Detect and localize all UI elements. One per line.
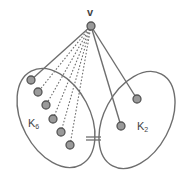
diagram-svg: v K6 K2 bbox=[0, 0, 179, 173]
nodes bbox=[27, 22, 141, 149]
k2-label: K2 bbox=[137, 120, 148, 133]
graph-diagram: v K6 K2 bbox=[0, 0, 179, 173]
k2-node-1 bbox=[117, 122, 125, 130]
k2-label-sub: 2 bbox=[144, 126, 148, 133]
k6-node-1 bbox=[34, 88, 42, 96]
k2-node-0 bbox=[133, 95, 141, 103]
k6-node-2 bbox=[42, 101, 50, 109]
k6-node-5 bbox=[66, 141, 74, 149]
k6-label: K6 bbox=[28, 117, 39, 130]
edge-v-k6-2 bbox=[46, 26, 91, 105]
k6-node-3 bbox=[49, 115, 57, 123]
apex-node bbox=[87, 22, 95, 30]
apex-label: v bbox=[87, 6, 94, 18]
k6-node-4 bbox=[57, 128, 65, 136]
edge-v-k2-1 bbox=[91, 26, 121, 126]
edge-v-k6-4 bbox=[61, 26, 91, 132]
k6-label-sub: 6 bbox=[35, 123, 39, 130]
edge-v-k2-0 bbox=[91, 26, 137, 99]
k6-node-0 bbox=[27, 76, 35, 84]
edge-v-k6-1 bbox=[38, 26, 91, 92]
edge-v-k6-0 bbox=[31, 26, 91, 80]
k6-ellipse bbox=[1, 55, 111, 173]
k2-ellipse bbox=[83, 59, 179, 173]
